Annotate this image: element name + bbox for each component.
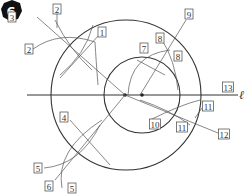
step-label-text: 9 bbox=[187, 10, 192, 20]
step-label-l2a: 2 bbox=[53, 4, 61, 15]
step-label-text: 8 bbox=[158, 34, 163, 44]
step-label-text: 13 bbox=[224, 83, 234, 93]
step-label-text: 11 bbox=[178, 123, 187, 133]
step-label-text: 1 bbox=[100, 28, 105, 38]
step-label-l2b: 2 bbox=[25, 44, 33, 55]
lower-left-construction bbox=[44, 95, 125, 188]
step-label-text: 8 bbox=[176, 52, 181, 62]
step-label-l6: 6 bbox=[45, 181, 53, 192]
step-label-l4: 4 bbox=[60, 112, 68, 123]
step-label-text: 12 bbox=[220, 130, 229, 140]
step-label-text: 10 bbox=[151, 120, 161, 130]
step-label-l3a: 3 bbox=[8, 12, 16, 23]
step-label-l5b: 5 bbox=[68, 183, 76, 194]
step-label-text: 5 bbox=[70, 184, 75, 194]
geometry-construction-diagram: 6 ℓ 32129878134111011125 bbox=[0, 0, 248, 194]
step-label-l10: 10 bbox=[150, 119, 161, 130]
step-label-l12: 12 bbox=[219, 129, 230, 140]
step-label-text: 4 bbox=[62, 113, 67, 123]
step-label-l5a: 5 bbox=[34, 163, 42, 174]
step-label-l11a: 11 bbox=[203, 101, 214, 112]
step-label-text: 5 bbox=[36, 164, 41, 174]
step-labels: 3212987813411101112565 bbox=[8, 4, 234, 194]
step-label-text: 2 bbox=[55, 5, 60, 15]
step-label-l8b: 8 bbox=[174, 51, 182, 62]
step-label-text: 3 bbox=[10, 13, 15, 23]
step-label-l1: 1 bbox=[98, 27, 106, 38]
step-label-text: 2 bbox=[27, 45, 32, 55]
step-label-text: 7 bbox=[142, 44, 147, 54]
upper-left-construction bbox=[33, 14, 125, 95]
step-label-l8a: 8 bbox=[156, 33, 164, 44]
step-label-l11b: 11 bbox=[177, 122, 188, 133]
step-label-l9: 9 bbox=[185, 9, 193, 20]
step-label-l13: 13 bbox=[223, 82, 234, 93]
step-label-text: 11 bbox=[204, 102, 213, 112]
line-l-label: ℓ bbox=[239, 88, 244, 102]
step-label-text: 6 bbox=[47, 182, 52, 192]
step-label-l7: 7 bbox=[140, 43, 148, 54]
